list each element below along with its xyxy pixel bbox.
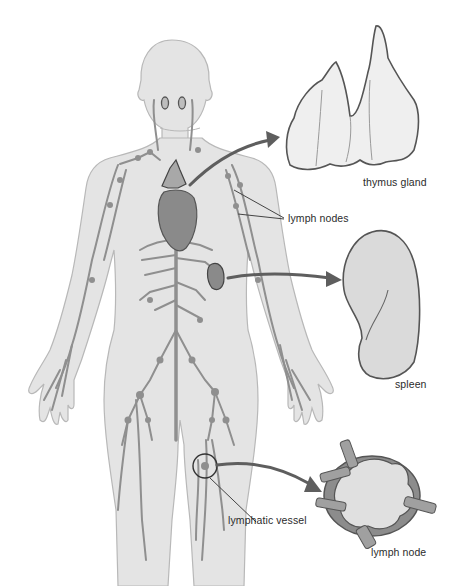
thymus-gland-label: thymus gland bbox=[363, 176, 427, 188]
human-body-figure bbox=[29, 40, 334, 586]
spleen-label: spleen bbox=[395, 378, 427, 390]
lymphatic-vessel-label: lymphatic vessel bbox=[228, 514, 307, 526]
thymus-gland-illustration bbox=[287, 26, 419, 170]
arrow-icon-spleen bbox=[326, 271, 342, 287]
lymph-nodes-label: lymph nodes bbox=[288, 212, 349, 224]
lymph-node-label: lymph node bbox=[371, 546, 426, 558]
lymph-node-illustration bbox=[315, 439, 436, 549]
spleen-illustration bbox=[343, 231, 419, 379]
arrow-icon-thymus bbox=[266, 131, 280, 148]
arrow-icon-lymph-node bbox=[304, 476, 322, 492]
spleen-on-body bbox=[208, 264, 225, 290]
lymphatic-system-illustration bbox=[0, 0, 458, 586]
